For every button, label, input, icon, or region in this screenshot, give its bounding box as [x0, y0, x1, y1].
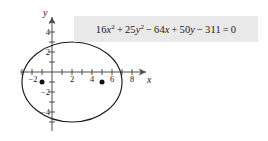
- x-tick-label--2: −2: [26, 74, 40, 84]
- equation-callout-box: 16x2+25y2−64x+50y−311=0: [74, 16, 258, 42]
- eq-coef-6: 0: [231, 24, 236, 35]
- y-tick-label-2: 2: [38, 47, 50, 57]
- y-axis-label: y: [43, 7, 47, 18]
- equation-text: 16x2+25y2−64x+50y−311=0: [96, 24, 236, 35]
- eq-coef-5: 311: [205, 24, 221, 35]
- eq-coef-4: 50: [180, 24, 191, 35]
- eq-var-3: x: [165, 24, 170, 35]
- eq-coef-2: 25: [125, 24, 136, 35]
- eq-coef-1: 16: [96, 24, 107, 35]
- eq-op-3: +: [170, 24, 180, 35]
- eq-op-4: −: [195, 24, 205, 35]
- eq-coef-3: 64: [154, 24, 165, 35]
- x-tick-label-8: 8: [125, 74, 139, 84]
- eq-op-2: −: [144, 24, 154, 35]
- focus-point-right: [100, 80, 105, 85]
- y-tick-label--2: −2: [34, 87, 50, 97]
- x-tick-label-6: 6: [105, 74, 119, 84]
- y-tick-label-4: 4: [38, 27, 50, 37]
- x-tick-label-4: 4: [85, 74, 99, 84]
- ellipse-figure: y x −2 2 4 6 8 4 2 −2 −4 16x2+25y2−64x+5…: [0, 0, 268, 141]
- eq-op-1: +: [115, 24, 125, 35]
- y-tick-label--4: −4: [34, 107, 50, 117]
- eq-op-5: =: [221, 24, 231, 35]
- focus-point-left: [40, 80, 45, 85]
- x-axis-label: x: [147, 74, 151, 85]
- x-tick-label-2: 2: [65, 74, 79, 84]
